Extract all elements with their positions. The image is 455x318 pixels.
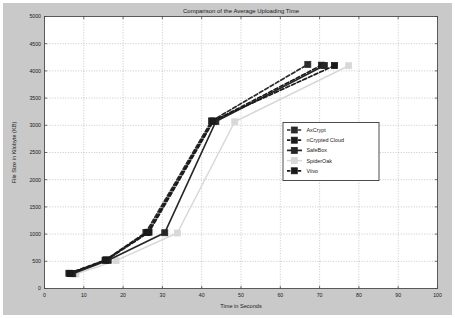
y-tick-label: 1500 (29, 204, 41, 210)
legend-item-safebox[interactable]: SafeBox (287, 147, 327, 153)
chart-canvas: 0102030405060708090100050010001500200025… (0, 0, 455, 318)
legend-item-spideroak[interactable]: SpiderOak (287, 158, 332, 164)
x-tick-label: 50 (238, 292, 244, 298)
x-axis-label: Time in Seconds (220, 303, 262, 309)
figure-panel: 0102030405060708090100050010001500200025… (0, 0, 455, 318)
legend-label: AxCrypt (307, 127, 327, 133)
legend-label: SpiderOak (307, 158, 333, 164)
x-tick-label: 40 (199, 292, 205, 298)
y-tick-label: 3000 (29, 122, 41, 128)
legend-item-ncrypted-cloud[interactable]: nCrypted Cloud (287, 137, 344, 143)
x-tick-label: 90 (395, 292, 401, 298)
legend-label: SafeBox (307, 147, 328, 153)
y-tick-label: 3500 (29, 95, 41, 101)
x-tick-label: 60 (277, 292, 283, 298)
legend-item-axcrypt[interactable]: AxCrypt (287, 127, 326, 133)
x-tick-label: 30 (160, 292, 166, 298)
y-tick-label: 0 (38, 285, 41, 291)
x-tick-label: 20 (120, 292, 126, 298)
y-tick-label: 1000 (29, 231, 41, 237)
y-axis-label: File Size in Kilobyte (KB) (11, 122, 17, 184)
y-tick-label: 4500 (29, 41, 41, 47)
x-tick-label: 100 (433, 292, 442, 298)
legend-label: nCrypted Cloud (307, 137, 344, 143)
y-tick-label: 2000 (29, 177, 41, 183)
x-tick-label: 10 (81, 292, 87, 298)
y-tick-label: 500 (32, 258, 41, 264)
legend[interactable]: AxCryptnCrypted CloudSafeBoxSpiderOakVii… (283, 123, 379, 181)
y-tick-label: 5000 (29, 13, 41, 19)
x-tick-label: 80 (356, 292, 362, 298)
x-tick-label: 0 (43, 292, 46, 298)
legend-label: Viivo (307, 168, 319, 174)
y-tick-label: 2500 (29, 149, 41, 155)
chart-title: Comparison of the Average Uploading Time (183, 8, 300, 14)
x-tick-label: 70 (317, 292, 323, 298)
y-tick-label: 4000 (29, 68, 41, 74)
